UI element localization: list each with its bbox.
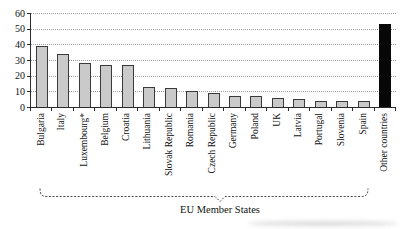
bar-luxembourg	[79, 63, 91, 107]
x-category-label-luxembourg: Luxembourg*	[78, 113, 89, 167]
x-tick	[309, 107, 310, 111]
y-tick-label-30: 30	[2, 55, 25, 66]
x-tick	[266, 107, 267, 111]
x-tick	[331, 107, 332, 111]
bar-chart-figure: 0102030405060 BulgariaItalyLuxembourg*Be…	[0, 0, 404, 229]
x-category-label-czech-republic: Czech Republic	[207, 113, 218, 173]
x-category-label-latvia: Latvia	[293, 113, 304, 137]
bar-slovenia	[336, 101, 348, 107]
y-tick-label-0: 0	[2, 102, 25, 113]
bar-spain	[358, 101, 370, 107]
y-tick-60	[27, 13, 30, 14]
x-tick	[137, 107, 138, 111]
x-category-label-italy: Italy	[57, 113, 68, 130]
x-category-label-spain: Spain	[357, 113, 368, 135]
x-category-label-portugal: Portugal	[314, 113, 325, 145]
y-tick-50	[27, 29, 30, 30]
x-category-label-bulgaria: Bulgaria	[35, 113, 46, 146]
x-tick	[30, 107, 31, 111]
gridline-60	[31, 13, 396, 14]
x-tick	[395, 107, 396, 111]
x-tick	[374, 107, 375, 111]
x-category-label-slovak-republic: Slovak Republic	[164, 113, 175, 176]
bar-poland	[250, 96, 262, 107]
y-tick-label-10: 10	[2, 86, 25, 97]
y-tick-30	[27, 60, 30, 61]
bar-portugal	[315, 101, 327, 107]
bar-germany	[229, 96, 241, 107]
scan-artifact	[248, 221, 398, 226]
x-category-label-lithuania: Lithuania	[143, 113, 154, 149]
x-category-label-belgium: Belgium	[100, 113, 111, 146]
bar-uk	[272, 98, 284, 107]
x-category-label-uk: UK	[271, 113, 282, 127]
bar-other-countries	[379, 24, 391, 107]
x-tick	[94, 107, 95, 111]
bar-lithuania	[143, 87, 155, 107]
x-tick	[116, 107, 117, 111]
y-tick-label-40: 40	[2, 39, 25, 50]
x-category-label-other-countries: Other countries	[379, 113, 390, 172]
bar-romania	[186, 91, 198, 107]
y-tick-label-50: 50	[2, 23, 25, 34]
bar-czech-republic	[208, 93, 220, 107]
x-tick	[288, 107, 289, 111]
x-tick	[51, 107, 52, 111]
y-tick-10	[27, 91, 30, 92]
x-tick	[73, 107, 74, 111]
bar-croatia	[122, 65, 134, 107]
x-tick	[352, 107, 353, 111]
gridline-30	[31, 60, 396, 61]
x-category-label-croatia: Croatia	[121, 113, 132, 141]
y-tick-40	[27, 44, 30, 45]
y-tick-20	[27, 76, 30, 77]
bar-slovak-republic	[165, 88, 177, 107]
plot-area	[30, 13, 396, 108]
bar-belgium	[100, 65, 112, 107]
gridline-50	[31, 29, 396, 30]
x-category-label-poland: Poland	[250, 113, 261, 139]
bar-latvia	[293, 99, 305, 107]
x-category-label-slovenia: Slovenia	[336, 113, 347, 146]
x-category-label-romania: Romania	[186, 113, 197, 147]
y-tick-label-20: 20	[2, 70, 25, 81]
bar-italy	[57, 54, 69, 107]
x-tick	[159, 107, 160, 111]
eu-brace-label: EU Member States	[180, 204, 260, 215]
gridline-40	[31, 44, 396, 45]
x-tick	[180, 107, 181, 111]
x-category-label-germany: Germany	[228, 113, 239, 148]
bar-bulgaria	[36, 46, 48, 107]
x-tick	[202, 107, 203, 111]
y-tick-label-60: 60	[2, 8, 25, 19]
x-tick	[245, 107, 246, 111]
x-tick	[223, 107, 224, 111]
